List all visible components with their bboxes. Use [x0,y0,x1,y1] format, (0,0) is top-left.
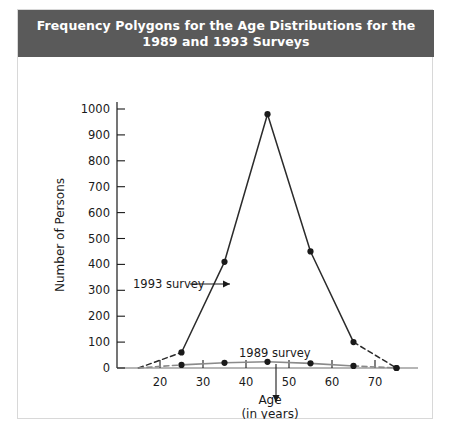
x-axis-tick-labels: 203040506070 [153,375,383,389]
y-tick-label: 700 [88,180,110,194]
frequency-polygon-chart: 01002003004005006007008009001000 2030405… [18,57,434,419]
data-point [350,363,356,369]
x-tick-label: 50 [282,375,297,389]
x-tick-label: 40 [239,375,254,389]
data-point [307,248,313,254]
data-point [393,365,399,371]
x-tick-label: 20 [153,375,168,389]
series-segment [268,362,311,364]
figure-title-line-2: 1989 and 1993 Surveys [142,34,309,50]
data-point [178,349,184,355]
y-axis-ticks [117,109,125,368]
series-segment [268,114,311,251]
data-point [264,111,270,117]
series-annotation-label: 1989 survey [239,346,311,360]
x-tick-label: 60 [325,375,340,389]
y-axis-title: Number of Persons [53,178,67,292]
series-segment [225,114,268,262]
y-tick-label: 800 [88,154,110,168]
y-tick-label: 200 [88,309,110,323]
data-point [350,339,356,345]
figure-title-line-1: Frequency Polygons for the Age Distribut… [37,18,416,34]
x-axis-title: Age [258,393,281,407]
y-tick-label: 300 [88,283,110,297]
y-tick-label: 1000 [81,102,110,116]
data-point [221,259,227,265]
series-segment [182,262,225,353]
x-tick-label: 70 [368,375,383,389]
annotation-arrow-head [223,280,230,287]
y-tick-label: 600 [88,206,110,220]
series-lines [139,114,397,368]
figure-container: Frequency Polygons for the Age Distribut… [17,9,433,419]
series-segment [182,363,225,365]
data-point [307,360,313,366]
data-point [178,362,184,368]
y-tick-label: 100 [88,335,110,349]
y-tick-label: 900 [88,128,110,142]
series-segment [311,251,354,342]
y-tick-label: 400 [88,257,110,271]
plot-area: 01002003004005006007008009001000 2030405… [18,57,434,419]
series-segment [225,362,268,363]
series-markers [178,111,399,371]
x-axis-subtitle: (in years) [241,407,298,419]
y-tick-label: 0 [103,361,110,375]
y-axis-tick-labels: 01002003004005006007008009001000 [81,102,110,375]
x-tick-label: 30 [196,375,211,389]
data-point [221,360,227,366]
figure-title-bar: Frequency Polygons for the Age Distribut… [18,10,434,57]
y-tick-label: 500 [88,232,110,246]
